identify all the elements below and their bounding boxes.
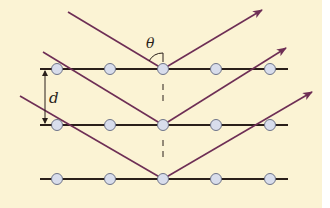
atom [211,64,222,75]
atom [265,120,276,131]
atom [158,120,169,131]
atom [52,174,63,185]
d-label: d [49,89,59,107]
atom [265,174,276,185]
bragg-diagram: θ d [0,0,322,208]
atom [52,120,63,131]
atom [158,174,169,185]
atom [52,64,63,75]
atom [211,174,222,185]
atom [105,120,116,131]
atom [211,120,222,131]
atom [105,174,116,185]
atom [158,64,169,75]
atom [105,64,116,75]
theta-label: θ [146,35,155,51]
bragg-diagram-panel: θ d [0,0,322,208]
atom [265,64,276,75]
